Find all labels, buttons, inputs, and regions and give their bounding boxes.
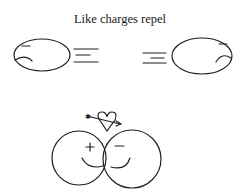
frown-mouth-icon <box>216 56 231 62</box>
top-right-particle <box>172 38 232 74</box>
negative-particle <box>103 130 161 188</box>
smile-icon <box>82 158 103 167</box>
svg-text:✱: ✱ <box>85 113 91 120</box>
diagram-canvas: ✱ <box>0 0 240 196</box>
heart-arrow-icon: ✱ <box>85 112 121 131</box>
speed-lines-left <box>74 49 98 62</box>
speed-lines-right <box>143 53 166 63</box>
positive-particle <box>52 131 106 185</box>
top-left-particle <box>14 39 70 71</box>
frown-mouth-icon <box>15 57 32 61</box>
smile-icon <box>111 158 130 168</box>
